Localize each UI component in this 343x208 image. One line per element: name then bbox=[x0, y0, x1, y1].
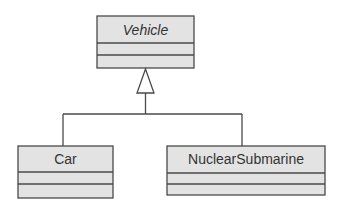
class-car-name: Car bbox=[54, 151, 77, 167]
class-nuclear-submarine[interactable]: NuclearSubmarine bbox=[167, 146, 325, 195]
generalization-arrowhead-icon bbox=[137, 69, 154, 93]
generalization-connectors bbox=[63, 69, 242, 146]
uml-class-diagram: Vehicle Car NuclearSubmarine bbox=[0, 0, 343, 208]
class-nuclear-submarine-name: NuclearSubmarine bbox=[188, 151, 304, 167]
class-car[interactable]: Car bbox=[18, 146, 113, 198]
class-vehicle[interactable]: Vehicle bbox=[97, 16, 194, 68]
class-vehicle-name: Vehicle bbox=[123, 22, 169, 38]
